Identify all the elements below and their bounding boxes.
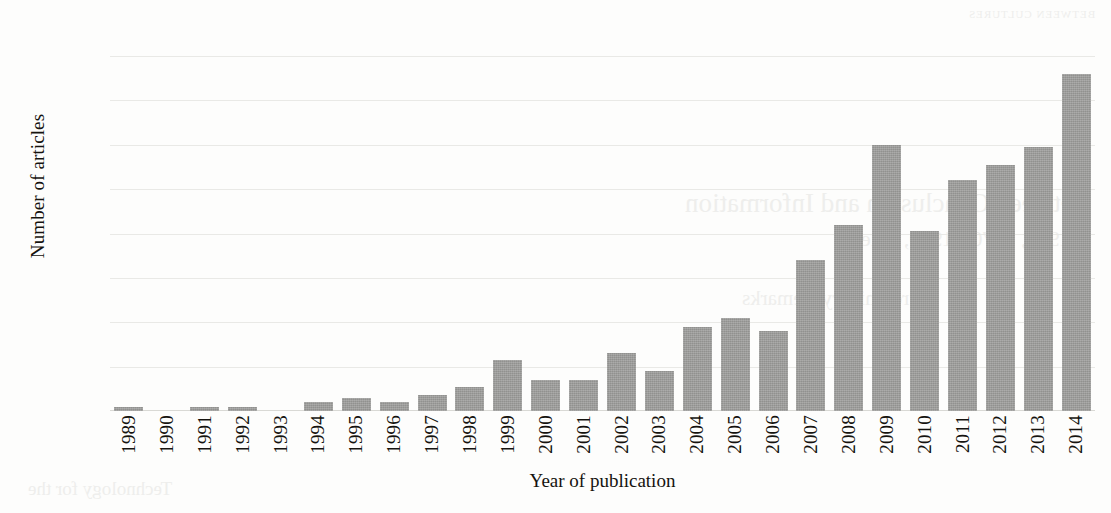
bar[interactable] (190, 407, 219, 411)
bar[interactable] (1062, 74, 1091, 411)
bar-slot (489, 56, 527, 411)
bar[interactable] (872, 145, 901, 411)
bar-slot (830, 56, 868, 411)
x-axis-tick-label: 2005 (724, 415, 746, 454)
x-tick-slot: 2012 (981, 415, 1019, 477)
bar-slot (451, 56, 489, 411)
x-axis-tick-label: 2004 (686, 415, 708, 454)
x-tick-slot: 2000 (527, 415, 565, 477)
bar[interactable] (342, 398, 371, 411)
bar-slot (337, 56, 375, 411)
bar[interactable] (228, 407, 257, 411)
bar-slot (754, 56, 792, 411)
x-tick-slot: 1994 (299, 415, 337, 477)
x-tick-slot: 2008 (830, 415, 868, 477)
x-tick-slot: 2001 (565, 415, 603, 477)
x-axis-tick-label: 1994 (307, 415, 329, 454)
bar-slot (1019, 56, 1057, 411)
bar-slot (186, 56, 224, 411)
bar-slot (1057, 56, 1095, 411)
x-axis-tick-label: 2000 (535, 415, 557, 454)
x-axis-title: Year of publication (110, 470, 1095, 492)
x-axis-tick-label: 1997 (421, 415, 443, 454)
bar[interactable] (759, 331, 788, 411)
x-tick-slot: 1997 (413, 415, 451, 477)
x-tick-slot: 2005 (716, 415, 754, 477)
bar[interactable] (607, 353, 636, 411)
bar[interactable] (380, 402, 409, 411)
x-axis-tick-label: 1993 (270, 415, 292, 454)
bar-slot (565, 56, 603, 411)
bar[interactable] (493, 360, 522, 411)
x-axis-tick-label: 1999 (497, 415, 519, 454)
x-tick-slot: 2013 (1019, 415, 1057, 477)
x-tick-slot: 2007 (792, 415, 830, 477)
x-axis-tick-label: 1989 (118, 415, 140, 454)
bar-slot (868, 56, 906, 411)
bar-slot (262, 56, 300, 411)
x-axis-tick-label: 2014 (1065, 415, 1087, 454)
x-axis-tick-label: 2001 (573, 415, 595, 454)
bar-slot (603, 56, 641, 411)
x-tick-slot: 1996 (375, 415, 413, 477)
x-tick-slot: 2011 (944, 415, 982, 477)
x-axis-tick-label: 1990 (156, 415, 178, 454)
bar-slot (527, 56, 565, 411)
bar[interactable] (531, 380, 560, 411)
bar[interactable] (1024, 147, 1053, 411)
bar-slot (110, 56, 148, 411)
plot-area: 01020304050607080 (110, 56, 1095, 411)
bar[interactable] (455, 387, 484, 411)
x-tick-slot: 1993 (262, 415, 300, 477)
x-axis-tick-label: 2008 (838, 415, 860, 454)
bar[interactable] (569, 380, 598, 411)
bar-slot (640, 56, 678, 411)
bar[interactable] (834, 225, 863, 411)
bar-slot (224, 56, 262, 411)
x-tick-slot: 2010 (906, 415, 944, 477)
x-tick-slot: 2003 (640, 415, 678, 477)
x-axis-tick-label: 2007 (800, 415, 822, 454)
x-tick-slot: 2006 (754, 415, 792, 477)
bar-slot (375, 56, 413, 411)
x-axis-tick-label: 2006 (762, 415, 784, 454)
x-tick-slot: 1992 (224, 415, 262, 477)
x-axis-tick-label: 2002 (611, 415, 633, 454)
x-tick-slot: 1989 (110, 415, 148, 477)
bar[interactable] (645, 371, 674, 411)
bar[interactable] (910, 231, 939, 411)
x-axis-tick-label: 1991 (194, 415, 216, 454)
x-tick-slot: 2004 (678, 415, 716, 477)
bar-slot (944, 56, 982, 411)
x-axis-tick-label: 2013 (1027, 415, 1049, 454)
x-tick-slot: 1991 (186, 415, 224, 477)
bar-chart-figure: Number of articles 01020304050607080 198… (0, 0, 1111, 513)
bar[interactable] (418, 395, 447, 411)
bar[interactable] (948, 180, 977, 411)
bar-slot (792, 56, 830, 411)
x-tick-slot: 1995 (337, 415, 375, 477)
bar[interactable] (986, 165, 1015, 411)
bar[interactable] (304, 402, 333, 411)
x-tick-slot: 2002 (603, 415, 641, 477)
bar-series (110, 56, 1095, 411)
bar[interactable] (796, 260, 825, 411)
x-axis-tick-label: 2009 (876, 415, 898, 454)
bar[interactable] (721, 318, 750, 411)
x-axis-tick-label: 2003 (648, 415, 670, 454)
x-axis-tick-labels: 1989199019911992199319941995199619971998… (110, 415, 1095, 477)
x-tick-slot: 1999 (489, 415, 527, 477)
x-tick-slot: 1998 (451, 415, 489, 477)
x-axis-tick-label: 1995 (345, 415, 367, 454)
bar[interactable] (683, 327, 712, 411)
x-axis-tick-label: 1998 (459, 415, 481, 454)
bar[interactable] (114, 407, 143, 411)
bar-slot (716, 56, 754, 411)
x-axis-tick-label: 2010 (914, 415, 936, 454)
x-axis-tick-label: 1996 (383, 415, 405, 454)
bar-slot (981, 56, 1019, 411)
x-axis-tick-label: 2012 (989, 415, 1011, 454)
x-axis-tick-label: 2011 (952, 415, 974, 453)
bar-slot (906, 56, 944, 411)
x-tick-slot: 1990 (148, 415, 186, 477)
